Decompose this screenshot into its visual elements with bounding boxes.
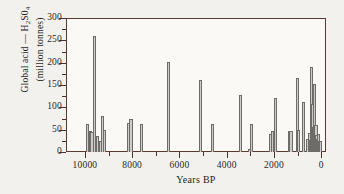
x-axis-minor-tick xyxy=(250,152,251,156)
x-axis-minor-tick xyxy=(203,152,204,156)
x-axis-tick xyxy=(132,152,133,158)
x-axis-minor-tick xyxy=(298,152,299,156)
y-axis-title-line2: (million tonnes) xyxy=(34,0,46,130)
y-axis-title-line1: Global acid — H2S04 xyxy=(20,7,30,93)
x-axis-tick-label: 10000 xyxy=(62,160,108,170)
x-axis-tick xyxy=(274,152,275,158)
x-axis-minor-tick xyxy=(109,152,110,156)
x-axis-tick-label: 2000 xyxy=(251,160,297,170)
y-axis-minor-tick xyxy=(62,74,66,75)
x-axis-tick xyxy=(85,152,86,158)
y-axis-minor-tick xyxy=(62,52,66,53)
x-axis-tick xyxy=(321,152,322,158)
x-axis-minor-tick xyxy=(156,152,157,156)
x-axis-tick xyxy=(179,152,180,158)
x-axis-title: Years BP xyxy=(66,174,326,185)
x-axis-tick-label: 8000 xyxy=(109,160,155,170)
x-axis-tick-label: 6000 xyxy=(156,160,202,170)
axes-ticks-layer: 0501001502002503001000080006000400020000 xyxy=(0,0,344,194)
chart-figure: 0501001502002503001000080006000400020000… xyxy=(0,0,344,194)
y-axis-minor-tick xyxy=(62,141,66,142)
y-axis-title: Global acid — H2S04 (million tonnes) xyxy=(19,0,46,130)
x-axis-tick-label: 0 xyxy=(298,160,344,170)
y-axis-minor-tick xyxy=(62,96,66,97)
y-axis-minor-tick xyxy=(62,29,66,30)
x-axis-tick xyxy=(227,152,228,158)
x-axis-tick-label: 4000 xyxy=(204,160,250,170)
y-axis-minor-tick xyxy=(62,119,66,120)
y-axis-tick-label: 0 xyxy=(32,147,62,156)
